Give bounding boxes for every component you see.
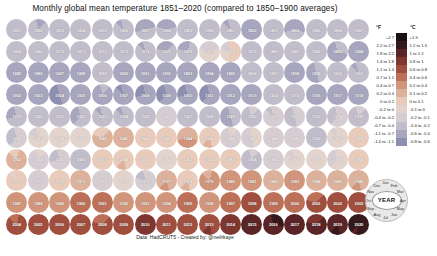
- year-pie-wedges: [28, 19, 49, 40]
- year-pie-wedges: [113, 62, 134, 83]
- year-pie-wedges: [177, 84, 198, 105]
- year-pie-wedges: [220, 127, 241, 148]
- year-pie: 1997: [220, 192, 241, 213]
- year-pie: 1901: [348, 62, 369, 83]
- year-pie: 1995: [177, 192, 198, 213]
- year-pie-wedges: [135, 84, 156, 105]
- year-pie: 2014: [220, 214, 241, 235]
- year-pie-wedges: [241, 106, 262, 127]
- year-pie: 1902: [6, 84, 27, 105]
- year-pie: 1884: [348, 41, 369, 62]
- year-pie-wedges: [241, 149, 262, 170]
- year-pie: 1936: [6, 127, 27, 148]
- year-pie-wedges: [6, 62, 27, 83]
- year-pie: 1872: [92, 41, 113, 62]
- year-pie: 1920: [28, 106, 49, 127]
- year-pie: 2001: [306, 192, 327, 213]
- year-pie: 1857: [135, 19, 156, 40]
- year-pie: 1889: [92, 62, 113, 83]
- year-pie-wedges: [156, 106, 177, 127]
- year-pie-wedges: [177, 19, 198, 40]
- year-pie: 1925: [135, 106, 156, 127]
- month-label-aug: Aug: [373, 212, 380, 217]
- year-pie: 1988: [28, 192, 49, 213]
- year-pie-wedges: [49, 41, 70, 62]
- year-pie-wedges: [6, 214, 27, 235]
- year-pie-wedges: [156, 214, 177, 235]
- year-pie: 1949: [284, 127, 305, 148]
- legend-fahrenheit-value: 0 to 0.2: [372, 99, 396, 104]
- year-pie: 1904: [49, 84, 70, 105]
- year-pie-wedges: [220, 106, 241, 127]
- year-pie: 1928: [199, 106, 220, 127]
- year-pie-wedges: [6, 170, 27, 191]
- year-pie: 1865: [306, 19, 327, 40]
- year-pie-wedges: [263, 170, 284, 191]
- legend-fahrenheit-value: +2.7: [372, 35, 396, 40]
- year-pie: 1984: [306, 170, 327, 191]
- year-pie: 1871: [70, 41, 91, 62]
- year-pie: 1894: [199, 62, 220, 83]
- year-pie-wedges: [241, 41, 262, 62]
- legend-fahrenheit-value: -1.4 to -1.1: [372, 139, 396, 144]
- month-label-feb: Feb: [391, 182, 398, 187]
- year-pie: 1859: [177, 19, 198, 40]
- legend-fahrenheit-value: 0.2 to 0.4: [372, 91, 396, 96]
- year-pie: 1966: [284, 149, 305, 170]
- legend-color-swatch: [396, 33, 407, 41]
- year-pie-wedges: [348, 127, 369, 148]
- year-pie-wedges: [241, 170, 262, 191]
- year-pie-wedges: [49, 170, 70, 191]
- year-pie-wedges: [92, 127, 113, 148]
- year-pie: 1912: [220, 84, 241, 105]
- legend-row: 2.2 to 2.71.2 to 1.5: [372, 41, 436, 49]
- year-pie: 1893: [177, 62, 198, 83]
- year-pie: 1942: [135, 127, 156, 148]
- year-pie: 1993: [135, 192, 156, 213]
- year-pie: 2004: [6, 214, 27, 235]
- year-pie: 1926: [156, 106, 177, 127]
- year-pie: 1952: [348, 127, 369, 148]
- legend-color-swatch: [396, 89, 407, 97]
- year-pie-wedges: [220, 62, 241, 83]
- year-pie-wedges: [220, 84, 241, 105]
- year-pie: 1908: [135, 84, 156, 105]
- year-pie: 1891: [135, 62, 156, 83]
- month-label-may: May: [397, 206, 404, 211]
- year-pie-wedges: [348, 41, 369, 62]
- year-pie-wedges: [49, 84, 70, 105]
- credit-line: Data: HadCRUT5 - Created by: @neilrkaye: [0, 234, 370, 240]
- year-pie-wedges: [327, 170, 348, 191]
- year-pie-wedges: [49, 214, 70, 235]
- year-pie-wedges: [92, 192, 113, 213]
- legend-rows: +2.7+1.52.2 to 2.71.2 to 1.51.8 to 2.21 …: [372, 33, 436, 146]
- year-pie: 1947: [241, 127, 262, 148]
- year-pie-wedges: [263, 19, 284, 40]
- legend-heading-celsius: °C: [410, 24, 416, 30]
- year-pie-wedges: [177, 106, 198, 127]
- year-pie: 2016: [263, 214, 284, 235]
- legend-color-swatch: [396, 130, 407, 138]
- year-pie-wedges: [113, 127, 134, 148]
- year-pie: 1953: [6, 149, 27, 170]
- legend-celsius-value: 0.1 to 0.2: [407, 91, 427, 96]
- page-title: Monthly global mean temperature 1851–202…: [0, 4, 370, 13]
- year-pie-wedges: [6, 149, 27, 170]
- year-pie: 1892: [156, 62, 177, 83]
- year-pie-wedges: [348, 19, 369, 40]
- year-pie-wedges: [327, 106, 348, 127]
- legend-color-swatch: [396, 138, 407, 146]
- year-pie-wedges: [49, 127, 70, 148]
- legend-fahrenheit-value: -0.2 to 0: [372, 107, 396, 112]
- legend-fahrenheit-value: 0.4 to 0.7: [372, 83, 396, 88]
- year-pie-wedges: [241, 84, 262, 105]
- year-pie-wedges: [70, 149, 91, 170]
- year-pie: 1864: [284, 19, 305, 40]
- year-pie-wedges: [113, 84, 134, 105]
- year-pie: 1921: [49, 106, 70, 127]
- year-pie: 1935: [348, 106, 369, 127]
- legend-color-swatch: [396, 105, 407, 113]
- month-label-jan: Jan: [382, 180, 388, 185]
- year-pie-wedges: [135, 170, 156, 191]
- year-pie-wedges: [220, 192, 241, 213]
